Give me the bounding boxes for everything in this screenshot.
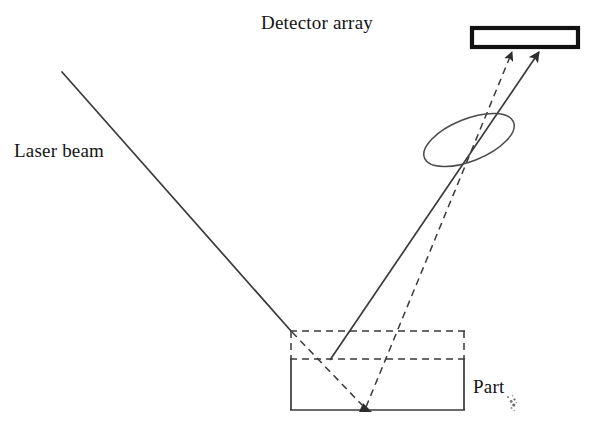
optical-diagram-svg [0,0,603,437]
detector-array-label: Detector array [261,12,373,34]
incident-dashed-ray-into-part [292,332,362,405]
laser-beam-label: Laser beam [14,140,104,162]
reflected-dashed-ray [366,52,512,407]
lens-ellipse [417,103,522,178]
figure-canvas: Detector array Laser beam Part [0,0,603,437]
part-label: Part [473,376,504,398]
detector-array-rect [472,28,578,47]
incident-laser-ray [62,72,291,331]
reflected-solid-ray [330,52,539,360]
